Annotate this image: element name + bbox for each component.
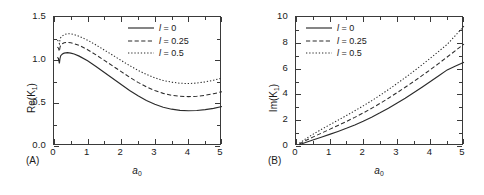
legend-item: l = 0.5 bbox=[128, 47, 189, 60]
legend-label: l = 0.25 bbox=[159, 35, 189, 48]
panel-b-legend: l = 0 l = 0.25 l = 0.5 bbox=[306, 22, 367, 60]
panel-b-xtick: 0 bbox=[292, 147, 297, 157]
legend-eq: = bbox=[161, 23, 171, 33]
legend-label: l = 0.5 bbox=[337, 47, 362, 60]
legend-item: l = 0.25 bbox=[128, 35, 189, 48]
panel-a-ytick: 1.0 bbox=[32, 54, 46, 64]
legend-value: 0.5 bbox=[171, 48, 184, 58]
legend-value: 0.25 bbox=[349, 36, 367, 46]
panel-b-x-axis-title-sub: 0 bbox=[380, 170, 384, 177]
panel-b-ytick: 0 bbox=[283, 140, 288, 150]
legend-swatch-solid-icon bbox=[128, 24, 154, 32]
legend-swatch-solid-icon bbox=[306, 24, 332, 32]
panel-a-ytick: 0.5 bbox=[32, 97, 46, 107]
legend-item: l = 0.25 bbox=[306, 35, 367, 48]
legend-eq: = bbox=[339, 48, 349, 58]
panel-a-x-tick-labels: 0 1 2 3 4 5 bbox=[53, 147, 221, 161]
legend-label: l = 0.25 bbox=[337, 35, 367, 48]
legend-value: 0.5 bbox=[349, 48, 362, 58]
legend-swatch-dashed-icon bbox=[128, 37, 154, 45]
panel-a: Re(K1) 0.0 0.5 1.0 1.5 bbox=[0, 0, 242, 195]
panel-b-xtick: 1 bbox=[326, 147, 331, 157]
legend-value: 0 bbox=[349, 23, 354, 33]
panel-b-xtick: 5 bbox=[459, 147, 464, 157]
legend-swatch-dotted-icon bbox=[128, 49, 154, 57]
legend-eq: = bbox=[161, 48, 171, 58]
series-solid bbox=[57, 53, 222, 111]
panel-b-ytick: 8 bbox=[283, 37, 288, 47]
panel-a-x-axis-title: a0 bbox=[53, 165, 221, 177]
legend-item: l = 0.5 bbox=[306, 47, 367, 60]
panel-a-xtick: 4 bbox=[185, 147, 190, 157]
legend-eq: = bbox=[339, 23, 349, 33]
legend-swatch-dashed-icon bbox=[306, 37, 332, 45]
panel-b-ytick: 4 bbox=[283, 89, 288, 99]
panel-a-xtick: 1 bbox=[84, 147, 89, 157]
legend-value: 0.25 bbox=[171, 36, 189, 46]
panel-a-y-tick-labels: 0.0 0.5 1.0 1.5 bbox=[0, 16, 50, 145]
panel-a-ytick: 0.0 bbox=[32, 140, 46, 150]
legend-label: l = 0.5 bbox=[159, 47, 184, 60]
panel-b-tag: (B) bbox=[268, 155, 281, 166]
panel-a-xtick: 3 bbox=[151, 147, 156, 157]
panel-b-ytick: 2 bbox=[283, 114, 288, 124]
legend-item: l = 0 bbox=[128, 22, 189, 35]
legend-eq: = bbox=[161, 36, 171, 46]
panel-b-y-tick-labels: 0 2 4 6 8 10 bbox=[242, 16, 292, 145]
figure-root: Re(K1) 0.0 0.5 1.0 1.5 bbox=[0, 0, 484, 195]
panel-a-x-axis-title-sub: 0 bbox=[138, 170, 142, 177]
panel-a-xtick: 5 bbox=[217, 147, 222, 157]
panel-b: Im(K1) 0 2 4 6 8 10 bbox=[242, 0, 484, 195]
legend-label: l = 0 bbox=[337, 22, 354, 35]
panel-b-x-axis-title: a0 bbox=[295, 165, 463, 177]
panel-a-ytick: 1.5 bbox=[32, 11, 46, 21]
legend-swatch-dotted-icon bbox=[306, 49, 332, 57]
panel-b-ytick: 10 bbox=[277, 11, 288, 21]
panel-a-legend: l = 0 l = 0.25 l = 0.5 bbox=[128, 22, 189, 60]
legend-item: l = 0 bbox=[306, 22, 367, 35]
panel-b-xtick: 4 bbox=[427, 147, 432, 157]
panel-b-x-tick-labels: 0 1 2 3 4 5 bbox=[295, 147, 463, 161]
panel-a-xtick: 0 bbox=[50, 147, 55, 157]
legend-eq: = bbox=[339, 36, 349, 46]
panel-a-tag: (A) bbox=[26, 155, 39, 166]
panel-b-xtick: 3 bbox=[393, 147, 398, 157]
panel-b-ytick: 6 bbox=[283, 63, 288, 73]
legend-label: l = 0 bbox=[159, 22, 176, 35]
legend-value: 0 bbox=[171, 23, 176, 33]
panel-a-xtick: 2 bbox=[118, 147, 123, 157]
panel-b-xtick: 2 bbox=[360, 147, 365, 157]
